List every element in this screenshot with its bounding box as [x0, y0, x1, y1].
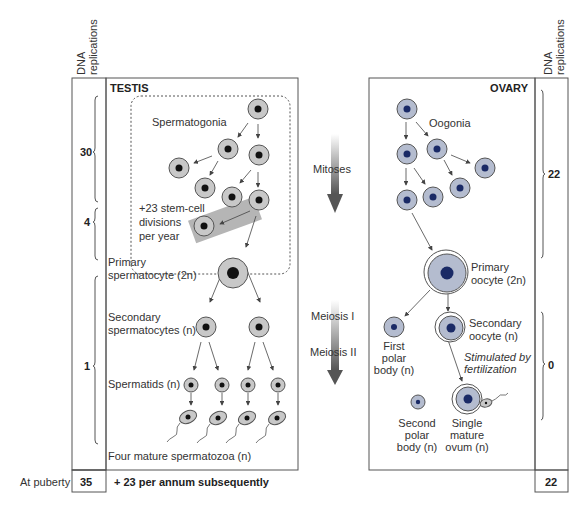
- ovum-line2: mature: [450, 429, 484, 441]
- bracket-22-value: 22: [548, 168, 560, 180]
- spermatogonia-label: Spermatogonia: [152, 116, 227, 128]
- at-puberty-label: At puberty: [20, 476, 71, 488]
- right-header-replications: replications: [554, 19, 566, 75]
- spermatid-cells: [184, 378, 285, 392]
- second-polar-body-cell: [411, 395, 425, 409]
- bracket-4: [93, 208, 98, 260]
- ovary-title: OVARY: [490, 82, 529, 94]
- first-polar-body-cell: [384, 317, 404, 337]
- gametogenesis-diagram: DNA replications 30 4 1 At puberty 35 + …: [0, 0, 588, 520]
- oogonia-label: Oogonia: [429, 117, 471, 129]
- secondary-oocyte-line1: Secondary: [469, 317, 522, 329]
- ovum-line1: Single: [452, 417, 483, 429]
- bracket-30: [93, 96, 98, 202]
- primary-spermatocyte-line1: Primary: [108, 256, 146, 268]
- bracket-1-value: 1: [84, 360, 90, 372]
- center-process-arrows: Mitoses Meiosis I Meiosis II: [310, 134, 356, 385]
- primary-spermatocyte-cell: [218, 258, 248, 288]
- stem-note-line2: divisions: [139, 216, 182, 228]
- left-column-frame: [72, 78, 106, 470]
- right-dna-column: DNA replications 22 0 22: [535, 19, 568, 492]
- mitoses-arrow-head-icon: [327, 194, 343, 213]
- second-polar-line1: Second: [398, 417, 435, 429]
- secondary-spermatocytes-line2: spermatocytes (n): [108, 324, 196, 336]
- left-header-replications: replications: [87, 19, 99, 75]
- stem-note-line3: per year: [139, 230, 180, 242]
- primary-oocyte-line1: Primary: [471, 261, 509, 273]
- left-header-dna: DNA: [75, 51, 87, 75]
- bracket-0-value: 0: [548, 359, 554, 371]
- secondary-spermatocyte-cells: [196, 317, 269, 337]
- oogonia-cells: [397, 99, 495, 210]
- bracket-1: [93, 276, 98, 444]
- stimulated-line2: fertilization: [464, 363, 517, 375]
- secondary-oocyte-cell: [435, 312, 465, 342]
- ovum-line3: ovum (n): [445, 441, 488, 453]
- ovary-panel: OVARY Oogonia: [369, 78, 535, 470]
- mature-spermatozoa-label: Four mature spermatozoa (n): [108, 450, 251, 462]
- first-polar-line1: First: [383, 340, 404, 352]
- meiosis1-label: Meiosis I: [311, 310, 354, 322]
- testis-title: TESTIS: [110, 82, 149, 94]
- mature-ovum-cell: [452, 384, 508, 414]
- second-polar-line2: polar: [405, 429, 430, 441]
- spermatids-label: Spermatids (n): [108, 378, 180, 390]
- first-polar-line2: polar: [382, 352, 407, 364]
- spermatozoa: [167, 408, 288, 443]
- primary-oocyte-cell: [424, 250, 468, 294]
- secondary-oocyte-line2: oocyte (n): [469, 330, 518, 342]
- bracket-22: [541, 90, 545, 258]
- meiosis2-label: Meiosis II: [310, 346, 356, 358]
- stem-note-line1: +23 stem-cell: [139, 202, 205, 214]
- right-column-frame: [535, 78, 568, 470]
- primary-oocyte-line2: oocyte (2n): [471, 274, 526, 286]
- at-puberty-value: 35: [80, 476, 92, 488]
- bracket-0: [541, 312, 545, 420]
- mitoses-label: Mitoses: [313, 163, 351, 175]
- primary-spermatocyte-line2: spermatocyte (2n): [108, 269, 197, 281]
- bracket-30-value: 30: [80, 146, 92, 158]
- right-footer-value: 22: [545, 476, 557, 488]
- right-header-dna: DNA: [542, 51, 554, 75]
- testis-panel: TESTIS Spermatogonia +23 stem-cell divis…: [106, 78, 298, 470]
- second-polar-line3: body (n): [397, 441, 437, 453]
- stimulated-line1: Stimulated by: [464, 351, 532, 363]
- first-polar-line3: body (n): [374, 364, 414, 376]
- meiosis-arrow-head-icon: [327, 370, 343, 385]
- per-annum-note: + 23 per annum subsequently: [114, 476, 270, 488]
- secondary-spermatocytes-line1: Secondary: [108, 311, 161, 323]
- bracket-4-value: 4: [84, 216, 91, 228]
